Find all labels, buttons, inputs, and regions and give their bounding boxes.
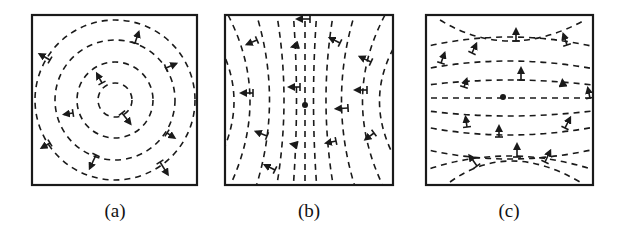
field-line xyxy=(420,37,600,48)
field-arrow-icon xyxy=(291,141,298,149)
field-arrow-icon xyxy=(297,15,310,23)
field-line xyxy=(276,10,284,190)
field-arrow-icon xyxy=(131,32,139,44)
field-line xyxy=(363,15,386,190)
field-arrow-icon xyxy=(517,68,525,80)
panel-a-caption: (a) xyxy=(85,200,145,222)
panel-c xyxy=(420,8,600,186)
field-arrow-icon xyxy=(360,57,373,66)
panel-b-arrows xyxy=(241,15,376,174)
field-line xyxy=(255,10,270,190)
field-arrow-icon xyxy=(90,153,100,168)
field-line xyxy=(314,10,318,190)
field-arrow-icon xyxy=(513,144,521,157)
field-arrow-icon xyxy=(256,131,269,139)
panel-c-arrows xyxy=(437,29,594,168)
panel-a-frame xyxy=(32,15,197,185)
field-circle xyxy=(77,62,153,138)
field-arrow-icon xyxy=(64,109,74,117)
field-arrow-icon xyxy=(97,74,106,85)
panel-b-caption: (b) xyxy=(279,200,339,222)
field-line xyxy=(430,8,590,16)
panel-c-caption: (c) xyxy=(479,200,539,222)
field-line xyxy=(440,20,585,41)
field-line xyxy=(450,161,580,182)
panel-a xyxy=(32,15,197,185)
field-arrow-icon xyxy=(437,53,445,65)
field-arrow-icon xyxy=(355,86,367,94)
field-line xyxy=(342,10,357,190)
field-line xyxy=(326,10,334,190)
field-arrow-icon xyxy=(460,79,468,88)
field-arrow-icon xyxy=(289,83,300,91)
field-line xyxy=(420,148,600,159)
panel-a-field-lines xyxy=(35,20,195,180)
panel-b-center-dot xyxy=(302,102,308,108)
field-arrow-icon xyxy=(559,80,567,86)
field-arrow-icon xyxy=(463,117,471,128)
field-arrow-icon xyxy=(561,118,570,130)
field-line xyxy=(228,15,250,190)
panel-c-center-dot xyxy=(500,94,506,100)
field-circle xyxy=(55,40,175,160)
field-arrow-icon xyxy=(365,130,376,140)
panel-b-field-lines xyxy=(210,10,405,190)
field-line xyxy=(420,126,600,135)
field-arrow-icon xyxy=(164,64,176,72)
field-arrow-icon xyxy=(512,29,520,41)
field-line xyxy=(210,30,234,175)
field-lines-figure: (a) (b) (c) xyxy=(0,0,621,241)
field-line xyxy=(420,80,600,86)
field-circle xyxy=(98,83,132,117)
field-arrow-icon xyxy=(241,89,253,97)
field-arrow-icon xyxy=(39,54,52,63)
panel-c-field-lines xyxy=(420,8,600,183)
field-arrow-icon xyxy=(468,44,476,55)
field-circle xyxy=(35,20,195,180)
panel-b xyxy=(210,10,405,190)
field-line xyxy=(420,110,600,116)
field-arrow-icon xyxy=(563,34,571,46)
field-arrow-icon xyxy=(330,38,342,47)
field-line xyxy=(293,10,297,190)
field-arrow-icon xyxy=(119,111,131,124)
field-line xyxy=(420,61,600,70)
panel-a-arrows xyxy=(39,32,176,175)
field-arrow-icon xyxy=(247,36,259,44)
field-arrow-icon xyxy=(165,130,175,138)
field-arrow-icon xyxy=(265,165,277,174)
